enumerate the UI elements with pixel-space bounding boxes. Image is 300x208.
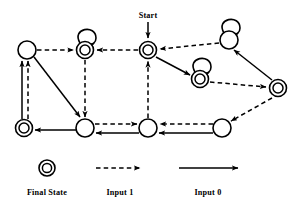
states <box>16 31 287 137</box>
start-label: Start <box>139 11 158 20</box>
state-node-farright-final[interactable] <box>270 80 287 97</box>
edge-topright-start <box>160 43 219 49</box>
legend-input0-label: Input 0 <box>194 188 221 197</box>
state-node-botmid2[interactable] <box>139 119 157 137</box>
edge-start-midright <box>156 57 190 75</box>
legend-input1-label: Input 1 <box>106 188 133 197</box>
state-node-topleft[interactable] <box>18 41 36 59</box>
state-node-start-final[interactable] <box>140 42 157 59</box>
edge-midright-farright <box>210 82 266 87</box>
self-loops <box>78 19 240 73</box>
state-node-midright-final[interactable] <box>192 71 209 88</box>
state-node-botmid1[interactable] <box>76 119 94 137</box>
diagram-canvas: Start <box>0 0 300 208</box>
legend-final-state-label: Final State <box>27 188 67 197</box>
edge-topleft-botmid1 <box>34 57 80 117</box>
edge-farright-botright <box>231 98 272 121</box>
state-node-botleft-final[interactable] <box>16 120 33 137</box>
state-machine-diagram: Start <box>0 0 300 208</box>
legend: Final State Input 1 Input 0 <box>27 160 238 197</box>
state-node-topmid-final[interactable] <box>77 42 94 59</box>
start-marker: Start <box>139 11 158 38</box>
edge-farright-topright <box>234 50 272 80</box>
state-node-topright[interactable] <box>220 31 238 49</box>
double-circle-icon <box>39 160 55 176</box>
state-node-botright[interactable] <box>213 119 231 137</box>
